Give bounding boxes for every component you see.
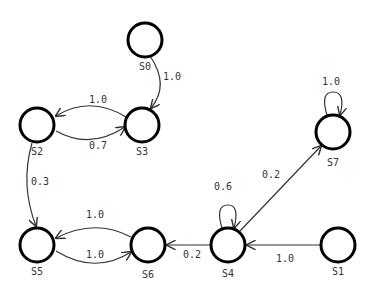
node-label-s2: S2 (31, 146, 43, 157)
label-s3-s2: 1.0 (89, 94, 107, 105)
node-label-s0: S0 (139, 61, 151, 72)
node-label-s6: S6 (142, 269, 154, 280)
state-circle-s2 (20, 108, 54, 142)
node-s0: S0 (128, 23, 162, 72)
label-s2-s5: 0.3 (31, 176, 49, 187)
node-s6: S6 (131, 228, 165, 280)
edge-s2-s3 (56, 127, 125, 140)
node-s2: S2 (20, 108, 54, 157)
label-s4-s4: 0.6 (214, 181, 232, 192)
node-label-s4: S4 (222, 268, 234, 279)
state-circle-s6 (131, 228, 165, 262)
label-s0-s3: 1.0 (163, 71, 181, 82)
state-circle-s1 (321, 228, 355, 262)
state-circle-s4 (211, 228, 245, 262)
label-s2-s3: 0.7 (89, 140, 107, 151)
nodes: S0 S1 S2 S3 S4 S5 S6 S7 (20, 23, 355, 280)
node-label-s1: S1 (332, 266, 344, 277)
node-label-s3: S3 (136, 146, 148, 157)
label-s4-s7: 0.2 (262, 169, 280, 180)
label-s4-s6: 0.2 (183, 249, 201, 260)
label-s1-s4: 1.0 (276, 253, 294, 264)
node-s4: S4 (211, 228, 245, 279)
edge-s4-s4-loop (220, 205, 236, 228)
node-s5: S5 (20, 228, 54, 277)
edge-s4-s7 (240, 146, 321, 231)
state-circle-s0 (128, 23, 162, 57)
edge-labels: 1.0 1.0 0.7 0.3 1.0 1.0 0.2 0.6 0.2 1.0 … (31, 71, 340, 264)
label-s6-s5: 1.0 (86, 209, 104, 220)
edge-s6-s5 (56, 228, 131, 238)
label-s5-s6: 1.0 (86, 249, 104, 260)
node-label-s5: S5 (31, 266, 43, 277)
state-circle-s5 (20, 228, 54, 262)
label-s7-s7: 1.0 (322, 76, 340, 87)
edges (27, 56, 342, 263)
node-s1: S1 (321, 228, 355, 277)
state-circle-s3 (125, 108, 159, 142)
state-circle-s7 (316, 115, 350, 149)
node-label-s7: S7 (327, 157, 339, 168)
node-s3: S3 (125, 108, 159, 157)
node-s7: S7 (316, 115, 350, 168)
edge-s7-s7-loop (325, 92, 342, 115)
edge-s3-s2 (56, 106, 126, 117)
state-diagram: 1.0 1.0 0.7 0.3 1.0 1.0 0.2 0.6 0.2 1.0 … (0, 0, 373, 297)
edge-s0-s3 (150, 56, 160, 108)
